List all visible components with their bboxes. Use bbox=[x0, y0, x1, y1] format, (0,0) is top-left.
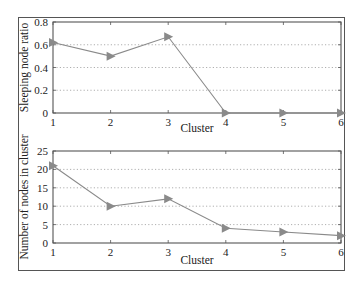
x-axis-label: Cluster bbox=[180, 254, 213, 266]
series-line bbox=[53, 166, 341, 236]
y-axis-label: Number of nodes in cluster bbox=[18, 134, 30, 259]
x-axis-label: Cluster bbox=[180, 122, 213, 134]
x-tick-label: 5 bbox=[281, 116, 287, 128]
y-tick-label: 10 bbox=[37, 200, 49, 212]
triangle-marker-icon bbox=[222, 224, 231, 233]
series-line bbox=[53, 37, 341, 113]
triangle-marker-icon bbox=[164, 32, 173, 41]
x-tick-label: 1 bbox=[50, 116, 56, 128]
y-tick-label: 0.8 bbox=[34, 16, 48, 28]
x-tick-label: 4 bbox=[223, 246, 229, 258]
x-tick-label: 2 bbox=[108, 246, 114, 258]
y-tick-label: 0 bbox=[43, 237, 49, 249]
x-tick-label: 3 bbox=[165, 116, 171, 128]
x-tick-label: 6 bbox=[338, 246, 344, 258]
x-tick-label: 3 bbox=[165, 246, 171, 258]
triangle-marker-icon bbox=[107, 52, 116, 61]
y-tick-label: 15 bbox=[37, 182, 49, 194]
x-tick-label: 1 bbox=[50, 246, 56, 258]
plot-area bbox=[53, 151, 341, 243]
y-tick-label: 20 bbox=[37, 163, 49, 175]
triangle-marker-icon bbox=[164, 194, 173, 203]
y-tick-label: 0.4 bbox=[34, 62, 48, 74]
x-tick-label: 6 bbox=[338, 116, 344, 128]
triangle-marker-icon bbox=[107, 202, 116, 211]
y-tick-label: 25 bbox=[37, 145, 49, 157]
triangle-marker-icon bbox=[279, 227, 288, 236]
y-tick-label: 0.6 bbox=[34, 39, 48, 51]
y-axis-label: Sleeping node ratio bbox=[18, 23, 31, 113]
nodes-in-cluster-chart: 0510152025123456ClusterNumber of nodes i… bbox=[18, 134, 346, 266]
y-tick-label: 0 bbox=[43, 107, 49, 119]
y-tick-label: 5 bbox=[43, 219, 49, 231]
figure: 00.20.40.60.8123456ClusterSleeping node … bbox=[0, 0, 363, 284]
x-tick-label: 5 bbox=[281, 246, 287, 258]
y-tick-label: 0.2 bbox=[34, 84, 48, 96]
sleeping-node-ratio-chart: 00.20.40.60.8123456ClusterSleeping node … bbox=[18, 16, 346, 134]
x-tick-label: 4 bbox=[223, 116, 229, 128]
x-tick-label: 2 bbox=[108, 116, 114, 128]
